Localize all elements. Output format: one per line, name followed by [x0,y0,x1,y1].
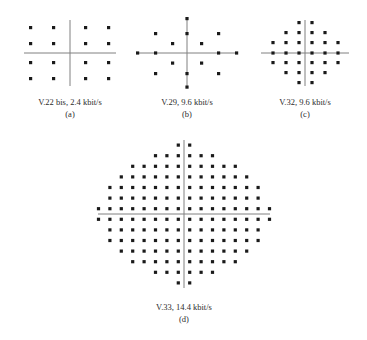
constellation-point [120,175,123,178]
constellation-point [177,218,180,221]
constellation-point [245,197,248,200]
constellation-point [222,186,225,189]
constellation-point [211,175,214,178]
constellation-plot-b [123,8,251,92]
constellation-point [234,186,237,189]
constellation-point [200,186,203,189]
constellation-point [108,186,111,189]
constellation-point [200,239,203,242]
constellation-point [234,207,237,210]
constellation-point [108,218,111,221]
constellation-point [211,165,214,168]
axis-lines-d [98,140,270,288]
constellation-point [143,218,146,221]
axis-lines-a [24,20,116,86]
constellation-point [165,218,168,221]
constellation-point [188,207,191,210]
constellation-point [257,218,260,221]
constellation-point [154,218,157,221]
constellation-point [131,207,134,210]
constellation-point [200,154,203,157]
constellation-point [108,197,111,200]
constellation-point [177,260,180,263]
constellation-point [97,218,100,221]
constellation-plot-d [84,130,284,298]
constellation-point [143,175,146,178]
constellation-point [177,271,180,274]
constellation-point [143,165,146,168]
constellation-point [211,239,214,242]
constellation-point [211,250,214,253]
constellation-point [131,250,134,253]
constellation-point [234,218,237,221]
constellation-panel-v22bis: V.22 bis, 2.4 kbit/s (a) [6,14,134,120]
constellation-point [211,186,214,189]
constellation-point [234,165,237,168]
constellation-point [154,154,157,157]
constellation-point [177,154,180,157]
constellation-point [234,260,237,263]
constellation-point [234,175,237,178]
constellation-point [257,197,260,200]
constellation-svg-a [6,14,134,92]
constellation-point [188,260,191,263]
constellation-point [188,281,191,284]
constellation-point [222,218,225,221]
panel-label-a: (a) [6,108,134,120]
constellation-point [257,207,260,210]
constellation-point [154,197,157,200]
constellation-point [165,175,168,178]
constellation-point [222,165,225,168]
panel-label-c: (c) [243,108,367,120]
constellation-panel-v33: V.33, 14.4 kbit/s (d) [84,130,284,325]
constellation-point [165,154,168,157]
constellation-point [131,260,134,263]
constellation-point [245,186,248,189]
constellation-point [177,250,180,253]
constellation-point [154,186,157,189]
constellation-point [154,250,157,253]
constellation-point [154,239,157,242]
constellation-point [120,186,123,189]
constellation-point [234,228,237,231]
constellation-point [165,271,168,274]
constellation-point [200,218,203,221]
constellation-point [120,228,123,231]
constellation-point [143,239,146,242]
constellation-point [234,239,237,242]
constellation-point [222,175,225,178]
constellation-point [245,228,248,231]
constellation-point [154,207,157,210]
constellation-point [165,250,168,253]
constellation-point [177,197,180,200]
constellation-point [188,218,191,221]
constellation-point [245,175,248,178]
constellation-svg-c [243,12,367,92]
constellation-point [222,260,225,263]
constellation-point [131,175,134,178]
constellation-point [120,197,123,200]
constellation-point [177,207,180,210]
constellation-svg-d [84,130,284,298]
constellation-point [108,207,111,210]
constellation-point [165,186,168,189]
constellation-point [120,218,123,221]
constellation-point [188,197,191,200]
constellation-point [234,197,237,200]
constellation-point [211,197,214,200]
constellation-point [188,271,191,274]
constellation-point [120,250,123,253]
constellation-point [268,218,271,221]
constellation-point [200,175,203,178]
constellation-point [131,218,134,221]
constellation-point [154,175,157,178]
constellation-point [222,207,225,210]
constellation-point [268,207,271,210]
constellation-point [165,228,168,231]
constellation-point [188,144,191,147]
constellation-plot-a [6,14,134,92]
constellation-point [211,218,214,221]
constellation-point [143,197,146,200]
constellation-point [165,239,168,242]
constellation-svg-b [123,8,251,92]
